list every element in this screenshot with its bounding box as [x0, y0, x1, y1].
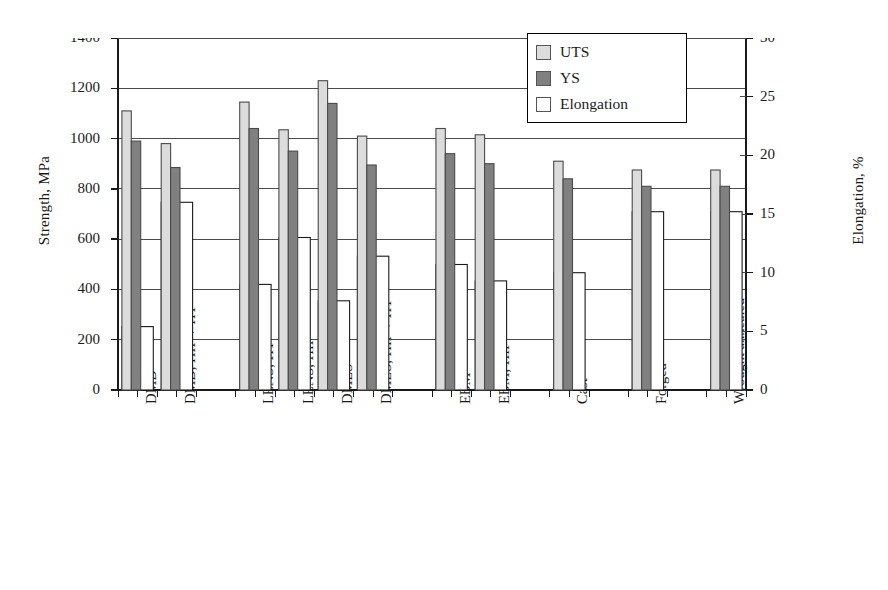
bar-ys — [445, 154, 454, 390]
legend-swatch-icon — [536, 45, 551, 60]
legend-label: UTS — [560, 44, 589, 60]
bar-uts — [161, 144, 170, 390]
legend-swatch-icon — [536, 97, 551, 112]
bar-chart: Strength, MPa Elongation, % 020040060080… — [0, 0, 888, 590]
bar-uts — [122, 111, 131, 390]
bar-uts — [240, 102, 249, 390]
plot-area — [0, 0, 888, 590]
bar-uts — [475, 135, 484, 390]
bar-ys — [485, 164, 494, 390]
bar-ys — [328, 103, 337, 390]
legend-item: UTS — [536, 39, 676, 65]
bar-ys — [367, 165, 376, 390]
chart-legend: UTSYSElongation — [527, 33, 687, 123]
bar-uts — [436, 129, 445, 391]
legend-item: YS — [536, 65, 676, 91]
bar-ys — [288, 151, 297, 390]
bar-uts — [632, 170, 641, 390]
bar-uts — [554, 161, 563, 390]
legend-label: YS — [560, 70, 580, 86]
legend-swatch-icon — [536, 71, 551, 86]
legend-item: Elongation — [536, 91, 676, 117]
bar-uts — [357, 136, 366, 390]
bar-uts — [711, 170, 720, 390]
bar-uts — [279, 130, 288, 390]
bar-ys — [642, 186, 651, 390]
bar-ys — [563, 179, 572, 390]
legend-label: Elongation — [560, 96, 628, 112]
bar-ys — [131, 141, 140, 390]
bar-ys — [171, 168, 180, 391]
bar-ys — [720, 186, 729, 390]
bar-uts — [318, 81, 327, 390]
bar-ys — [249, 129, 258, 391]
plot-top-mask — [0, 0, 888, 38]
